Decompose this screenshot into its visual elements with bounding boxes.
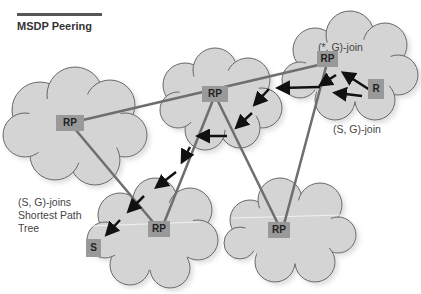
s-g-joins-line3: Tree	[18, 222, 82, 235]
s-g-join-label: (S, G)-join	[333, 123, 381, 136]
rp-top-right-node: RP	[317, 51, 338, 67]
rp-left-node: RP	[56, 115, 84, 131]
msdp-diagram: MSDP Peering (*, G)-join (S, G)-join (S,…	[0, 0, 421, 294]
title-rule	[17, 13, 102, 16]
cloud-bottom-right	[224, 178, 356, 282]
s-g-joins-line1: (S, G)-joins	[18, 196, 82, 209]
s-g-joins-line2: Shortest Path	[18, 209, 82, 222]
s-g-joins-label: (S, G)-joins Shortest Path Tree	[18, 196, 82, 235]
rp-bottom-left-node: RP	[148, 221, 170, 237]
rp-bottom-right-node: RP	[268, 222, 290, 238]
diagram-title: MSDP Peering	[17, 20, 92, 32]
rp-center-node: RP	[202, 86, 228, 102]
receiver-node: R	[368, 79, 384, 99]
source-node: S	[86, 239, 101, 257]
cloud-top-right	[282, 11, 418, 120]
